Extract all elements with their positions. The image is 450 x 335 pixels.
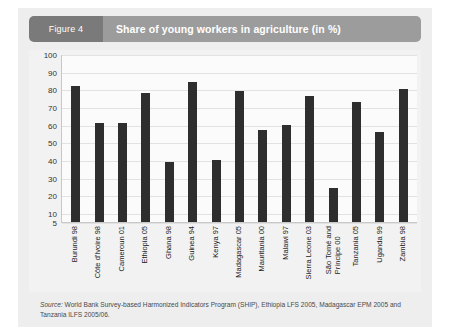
bar-slot bbox=[134, 55, 157, 222]
plot-wrapper: 1009080706050403020105 Burundi 98Côte d'… bbox=[29, 55, 417, 292]
x-axis-label-slot: Guinea 94 bbox=[180, 225, 203, 291]
source-note: Source: World Bank Survey-based Harmoniz… bbox=[40, 300, 420, 319]
bar-slot bbox=[204, 55, 227, 222]
plot-area bbox=[61, 55, 417, 223]
y-axis-tick-60: 60 bbox=[48, 121, 57, 130]
bar[interactable] bbox=[375, 132, 384, 222]
bar-slot bbox=[275, 55, 298, 222]
bar-slot bbox=[321, 55, 344, 222]
x-axis-label-slot: Kenya 97 bbox=[204, 225, 227, 291]
x-axis-label: Burundi 98 bbox=[70, 226, 79, 262]
y-axis-tick-70: 70 bbox=[48, 104, 57, 113]
y-axis-tick-10: 10 bbox=[48, 210, 57, 219]
bar[interactable] bbox=[165, 162, 174, 222]
figure-title-bar: Share of young workers in agriculture (i… bbox=[103, 16, 421, 42]
x-axis-label-slot: Burundi 98 bbox=[63, 225, 86, 291]
bar[interactable] bbox=[141, 93, 150, 222]
y-axis-tick-80: 80 bbox=[48, 86, 57, 95]
x-axis-label-slot: Cameroun 01 bbox=[110, 225, 133, 291]
x-axis-label: Ethiopia 05 bbox=[141, 226, 150, 264]
bar-slot bbox=[228, 55, 251, 222]
x-axis-label-slot: Ethiopia 05 bbox=[133, 225, 156, 291]
chart-card: 1009080706050403020105 Burundi 98Côte d'… bbox=[29, 50, 421, 292]
source-label: Source: bbox=[40, 301, 63, 308]
x-axis-label: Cameroun 01 bbox=[117, 226, 126, 271]
bar-slot bbox=[392, 55, 415, 222]
bar[interactable] bbox=[305, 96, 314, 222]
x-axis-label-slot: Madagascar 05 bbox=[227, 225, 250, 291]
bar[interactable] bbox=[329, 188, 338, 222]
bar[interactable] bbox=[399, 89, 408, 222]
y-axis-tick-100: 100 bbox=[44, 51, 57, 60]
x-axis-label-slot: Malawi 97 bbox=[274, 225, 297, 291]
x-axis-label-slot: Ghana 98 bbox=[157, 225, 180, 291]
bar-slot bbox=[298, 55, 321, 222]
x-axis-label: Tanzania 05 bbox=[352, 226, 361, 266]
bar-slot bbox=[251, 55, 274, 222]
bar-slot bbox=[64, 55, 87, 222]
bar-series bbox=[62, 55, 417, 222]
x-axis-label: Guinea 94 bbox=[188, 226, 197, 261]
x-axis-label: São Tomé and Príncipe 00 bbox=[324, 226, 341, 274]
bar[interactable] bbox=[118, 123, 127, 222]
bar-slot bbox=[87, 55, 110, 222]
source-text: World Bank Survey-based Harmonized Indic… bbox=[40, 301, 401, 318]
figure-title: Share of young workers in agriculture (i… bbox=[116, 23, 341, 35]
bar[interactable] bbox=[235, 91, 244, 222]
bar[interactable] bbox=[71, 86, 80, 222]
x-axis-label: Côte d'Ivoire 98 bbox=[94, 226, 103, 278]
x-axis-label: Zambia 98 bbox=[399, 226, 408, 261]
x-axis-label: Kenya 97 bbox=[211, 226, 220, 258]
y-axis-tick-20: 20 bbox=[48, 192, 57, 201]
bar[interactable] bbox=[212, 160, 221, 222]
x-axis-label: Uganda 99 bbox=[376, 226, 385, 263]
x-axis-label: Sierra Leone 03 bbox=[305, 226, 314, 279]
figure-header: Figure 4 Share of young workers in agric… bbox=[29, 16, 421, 42]
figure-number-badge: Figure 4 bbox=[29, 16, 103, 42]
y-axis-tick-30: 30 bbox=[48, 174, 57, 183]
bar[interactable] bbox=[258, 130, 267, 222]
x-axis-label-slot: São Tomé and Príncipe 00 bbox=[321, 225, 344, 291]
y-axis: 1009080706050403020105 bbox=[29, 55, 61, 223]
x-axis-label-slot: Tanzania 05 bbox=[345, 225, 368, 291]
x-axis-label: Ghana 98 bbox=[164, 226, 173, 259]
x-axis-label-slot: Uganda 99 bbox=[368, 225, 391, 291]
y-axis-tick-5: 5 bbox=[53, 219, 57, 228]
x-axis-label: Madagascar 05 bbox=[235, 226, 244, 278]
bar[interactable] bbox=[282, 125, 291, 222]
y-axis-tick-90: 90 bbox=[48, 68, 57, 77]
y-axis-tick-50: 50 bbox=[48, 139, 57, 148]
bar-slot bbox=[345, 55, 368, 222]
x-axis-label-slot: Côte d'Ivoire 98 bbox=[86, 225, 109, 291]
x-axis-label: Malawi 97 bbox=[282, 226, 291, 260]
gridline bbox=[62, 223, 417, 224]
bar-slot bbox=[368, 55, 391, 222]
figure-panel: Figure 4 Share of young workers in agric… bbox=[18, 8, 432, 327]
x-axis-label: Mauritania 00 bbox=[258, 226, 267, 271]
bar[interactable] bbox=[95, 123, 104, 222]
figure-number-label: Figure 4 bbox=[49, 24, 84, 34]
bar-slot bbox=[158, 55, 181, 222]
y-axis-tick-40: 40 bbox=[48, 157, 57, 166]
x-axis-label-slot: Zambia 98 bbox=[392, 225, 415, 291]
x-axis-label-slot: Mauritania 00 bbox=[251, 225, 274, 291]
x-axis-label-slot: Sierra Leone 03 bbox=[298, 225, 321, 291]
bar[interactable] bbox=[188, 82, 197, 222]
bar-slot bbox=[181, 55, 204, 222]
x-axis: Burundi 98Côte d'Ivoire 98Cameroun 01Eth… bbox=[61, 225, 417, 291]
bar[interactable] bbox=[352, 102, 361, 222]
bar-slot bbox=[111, 55, 134, 222]
